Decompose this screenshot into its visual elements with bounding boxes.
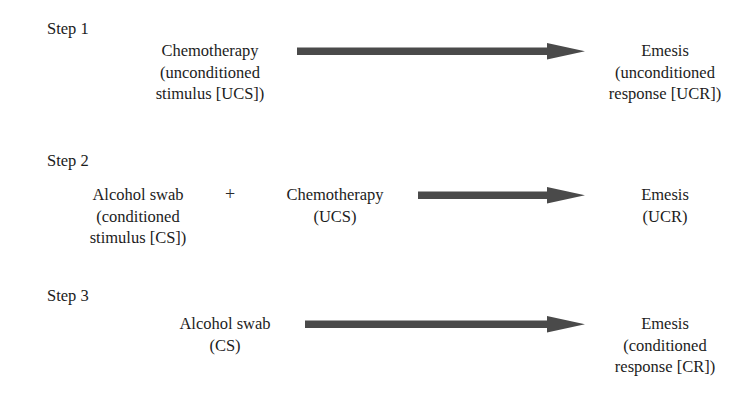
step3-stimulus-line-2: (CS) [145,335,305,357]
step2-ucs-line-2: (UCS) [255,206,415,228]
conditioning-diagram: Step 1 Chemotherapy (unconditioned stimu… [0,0,746,416]
step3-response-line-2: (conditioned [585,335,745,357]
step1-stimulus-term: Chemotherapy (unconditioned stimulus [UC… [120,40,300,105]
step1-stimulus-line-1: Chemotherapy [120,40,300,62]
step-label-1: Step 1 [47,19,89,39]
step1-arrow-icon [297,40,585,62]
step1-stimulus-line-2: (unconditioned [120,62,300,84]
plus-symbol: + [216,184,244,206]
step3-response-line-3: response [CR]) [585,356,745,378]
step3-arrow-icon [305,313,585,335]
step2-response-term: Emesis (UCR) [585,184,745,227]
step2-arrow-icon [418,184,585,206]
step3-response-line-1: Emesis [585,313,745,335]
step1-response-line-1: Emesis [585,40,745,62]
step3-response-term: Emesis (conditioned response [CR]) [585,313,745,378]
step2-cs-line-1: Alcohol swab [60,184,216,206]
step1-response-term: Emesis (unconditioned response [UCR]) [585,40,745,105]
step2-stimulus-ucs-term: Chemotherapy (UCS) [255,184,415,227]
step1-response-line-2: (unconditioned [585,62,745,84]
step3-stimulus-term: Alcohol swab (CS) [145,313,305,356]
step2-cs-line-2: (conditioned [60,206,216,228]
step-label-3: Step 3 [47,286,89,306]
step2-ucs-line-1: Chemotherapy [255,184,415,206]
step2-stimulus-cs-term: Alcohol swab (conditioned stimulus [CS]) [60,184,216,249]
step2-response-line-1: Emesis [585,184,745,206]
step2-response-line-2: (UCR) [585,206,745,228]
step2-cs-line-3: stimulus [CS]) [60,227,216,249]
step-label-2: Step 2 [47,151,89,171]
step3-stimulus-line-1: Alcohol swab [145,313,305,335]
step1-response-line-3: response [UCR]) [585,83,745,105]
step1-stimulus-line-3: stimulus [UCS]) [120,83,300,105]
